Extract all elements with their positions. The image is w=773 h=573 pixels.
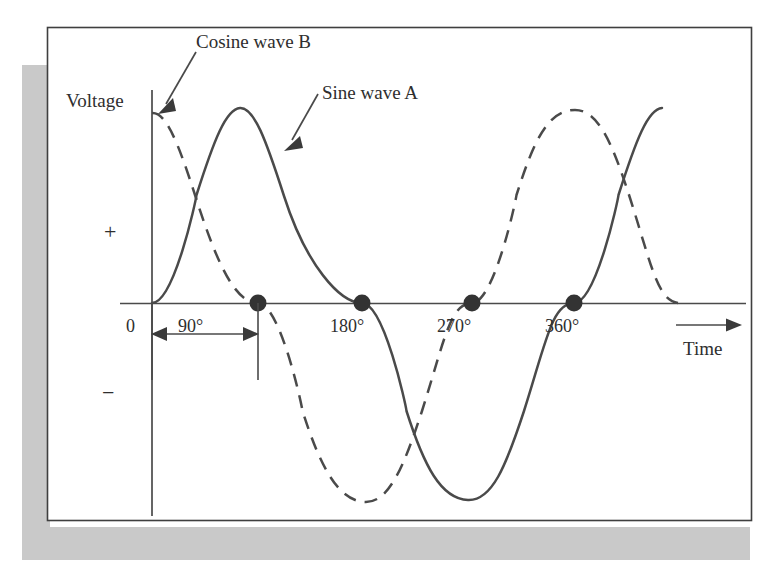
marker-180 [354, 295, 371, 312]
positive-polarity-label: + [104, 219, 116, 245]
negative-polarity-label: − [102, 380, 114, 406]
x-tick-label-180: 180° [330, 316, 364, 337]
x-axis-label: Time [683, 338, 722, 360]
sine-wave-callout-label: Sine wave A [322, 82, 418, 104]
origin-label: 0 [126, 316, 135, 337]
cosine-wave-callout-label: Cosine wave B [196, 31, 311, 53]
dimension-label-90: 90° [178, 316, 203, 337]
marker-270 [464, 295, 481, 312]
marker-360 [566, 295, 583, 312]
waveform-figure: Voltage + − 0 90° 180° 270° 360° Time Co… [0, 0, 773, 573]
x-tick-label-360: 360° [545, 316, 579, 337]
x-tick-label-270: 270° [437, 316, 471, 337]
y-axis-label: Voltage [66, 90, 124, 112]
